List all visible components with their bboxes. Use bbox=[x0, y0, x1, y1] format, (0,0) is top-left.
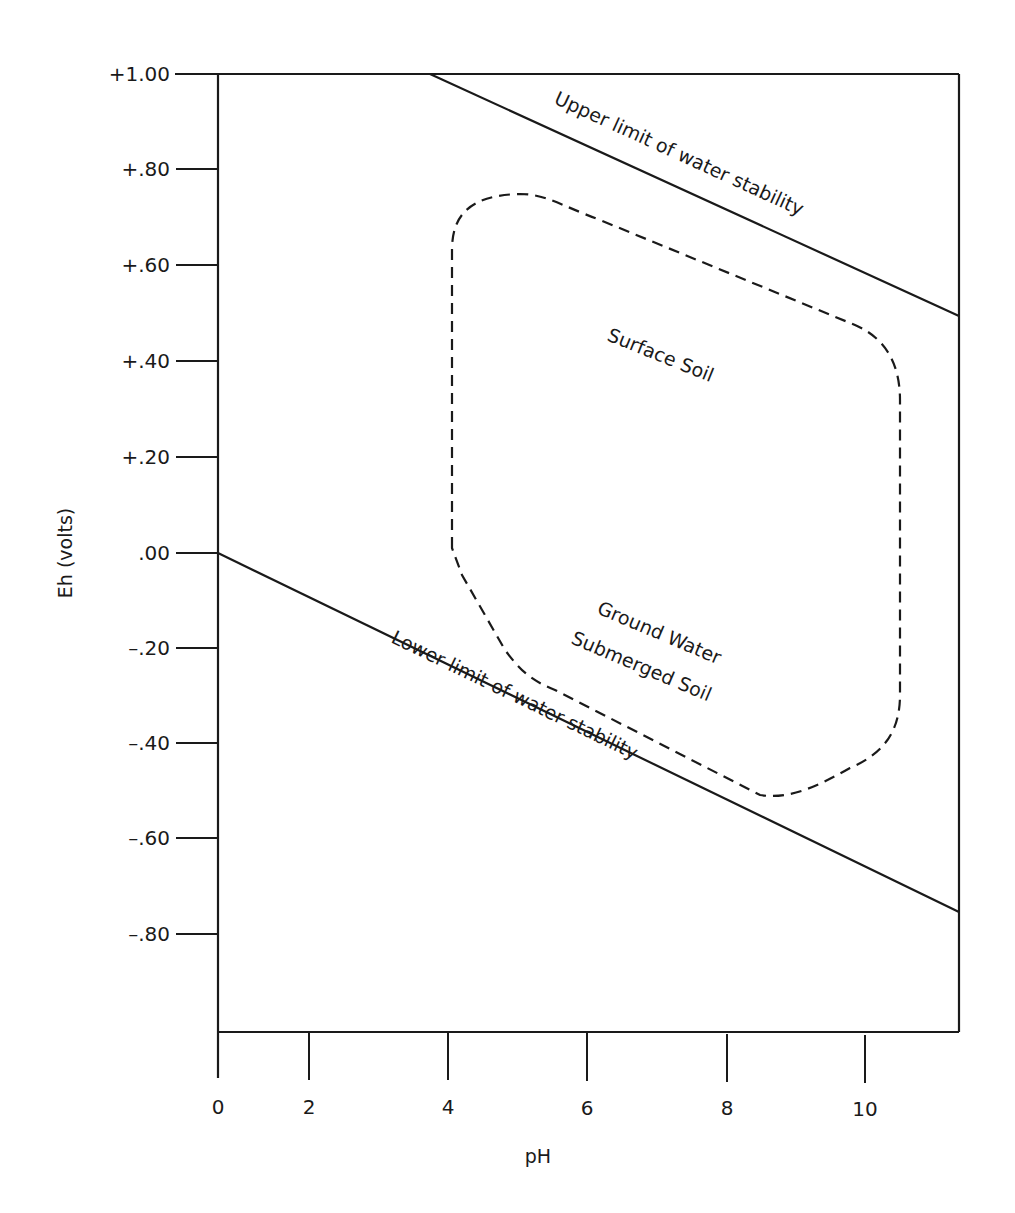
y-tick-labels: +1.00 +.80 +.60 +.40 +.20 .00 –.20 –.40 … bbox=[109, 62, 170, 946]
x-tick-labels: 0 2 4 6 8 10 bbox=[212, 1095, 878, 1121]
y-tick-label: +.40 bbox=[121, 349, 170, 373]
x-tick-label: 2 bbox=[303, 1095, 316, 1119]
x-tick-label: 4 bbox=[442, 1095, 455, 1119]
y-axis-ticks bbox=[176, 169, 218, 934]
y-tick-label: –.60 bbox=[128, 826, 170, 850]
y-tick-label: –.40 bbox=[128, 731, 170, 755]
upper-limit-label: Upper limit of water stability bbox=[551, 87, 807, 220]
x-axis-ticks bbox=[309, 1032, 865, 1083]
x-tick-label: 6 bbox=[581, 1096, 594, 1120]
y-tick-label: .00 bbox=[138, 541, 170, 565]
x-tick-label: 8 bbox=[721, 1096, 734, 1120]
y-tick-label: +.80 bbox=[121, 157, 170, 181]
y-tick-label: +1.00 bbox=[109, 62, 170, 86]
y-tick-label: –.80 bbox=[128, 922, 170, 946]
y-tick-label: +.60 bbox=[121, 253, 170, 277]
eh-ph-chart: +1.00 +.80 +.60 +.40 +.20 .00 –.20 –.40 … bbox=[0, 0, 1015, 1213]
surface-soil-label: Surface Soil bbox=[605, 323, 718, 386]
x-tick-label: 10 bbox=[852, 1097, 877, 1121]
y-axis-title: Eh (volts) bbox=[54, 508, 76, 598]
x-axis-title: pH bbox=[525, 1145, 551, 1167]
x-tick-label: 0 bbox=[212, 1095, 225, 1119]
y-tick-label: +.20 bbox=[121, 445, 170, 469]
y-tick-label: –.20 bbox=[128, 636, 170, 660]
plot-frame bbox=[175, 74, 959, 1078]
